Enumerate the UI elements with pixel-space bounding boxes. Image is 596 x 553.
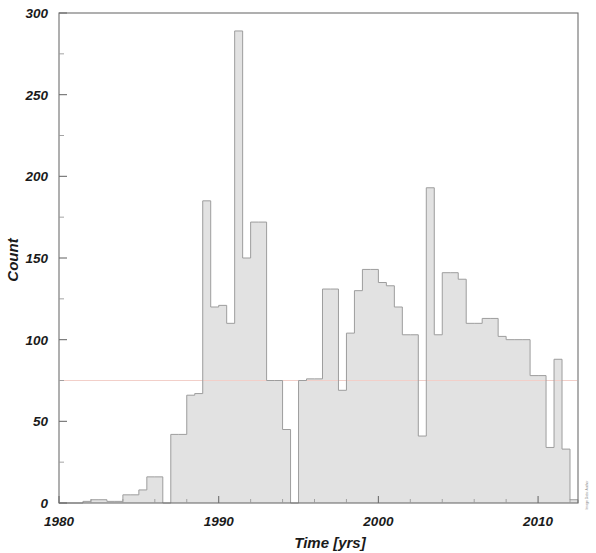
x-tick-label: 1990 [204, 514, 235, 529]
y-tick-label: 150 [25, 251, 48, 266]
y-tick-label: 250 [24, 88, 48, 103]
x-tick-label: 2010 [522, 514, 554, 529]
x-tick-label: 1980 [44, 514, 75, 529]
x-axis-title: Time [yrs] [294, 534, 366, 551]
y-tick-label: 50 [33, 414, 49, 429]
histogram-bars-fill [59, 31, 578, 503]
y-tick-label: 300 [25, 6, 48, 21]
y-axis-tick-labels: 050100150200250300 [24, 6, 48, 511]
y-tick-label: 100 [25, 333, 48, 348]
x-axis-tick-labels: 1980199020002010 [44, 514, 554, 529]
y-tick-label: 0 [40, 496, 48, 511]
y-axis-title: Count [4, 237, 21, 281]
credit-watermark: Image Data: Author [585, 480, 589, 510]
histogram-plot: 1980199020002010 050100150200250300 Time… [0, 0, 596, 553]
x-tick-label: 2000 [362, 514, 394, 529]
histogram-figure: 1980199020002010 050100150200250300 Time… [0, 0, 596, 553]
y-tick-label: 200 [24, 169, 48, 184]
